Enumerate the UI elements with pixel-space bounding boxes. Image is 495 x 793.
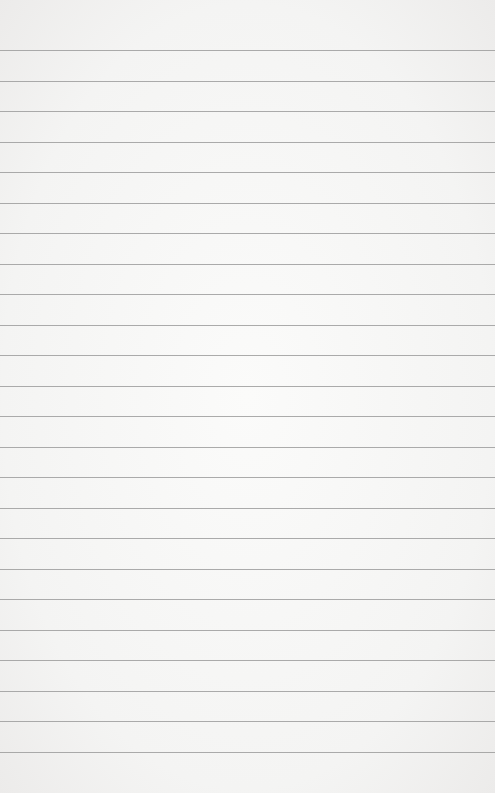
- ruled-line: [0, 142, 495, 143]
- ruled-line: [0, 447, 495, 448]
- ruled-line: [0, 721, 495, 722]
- ruled-line: [0, 416, 495, 417]
- ruled-line: [0, 508, 495, 509]
- ruled-line: [0, 599, 495, 600]
- ruled-line: [0, 111, 495, 112]
- ruled-line: [0, 660, 495, 661]
- lined-paper-sheet: [0, 0, 495, 793]
- ruled-line: [0, 294, 495, 295]
- ruled-line: [0, 752, 495, 753]
- ruled-line: [0, 233, 495, 234]
- ruled-line: [0, 203, 495, 204]
- ruled-line: [0, 569, 495, 570]
- ruled-line: [0, 50, 495, 51]
- ruled-line: [0, 264, 495, 265]
- ruled-line: [0, 172, 495, 173]
- ruled-line: [0, 386, 495, 387]
- ruled-line: [0, 538, 495, 539]
- ruled-line: [0, 691, 495, 692]
- ruled-line: [0, 477, 495, 478]
- ruled-line: [0, 355, 495, 356]
- ruled-line: [0, 630, 495, 631]
- ruled-line: [0, 325, 495, 326]
- ruled-line: [0, 81, 495, 82]
